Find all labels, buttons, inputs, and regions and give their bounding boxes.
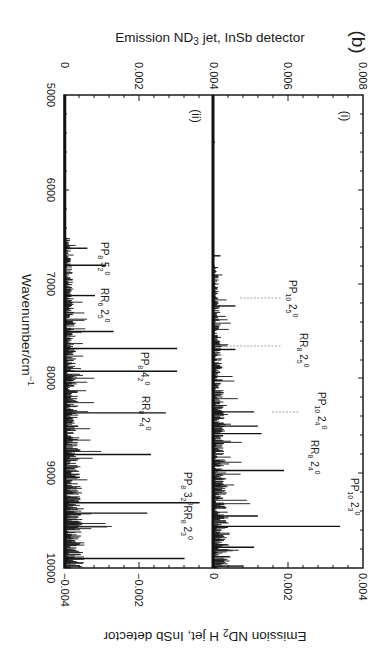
wavenumber-ticks: 5000 6000 7000 8000 9000 10000 bbox=[45, 83, 57, 584]
panel-label-ii: (ii) bbox=[189, 109, 203, 122]
top-axis-label: Emission ND3 jet, InSb detector bbox=[115, 30, 305, 47]
bottom-axis-label: Emission ND2 H jet, InSb detector bbox=[103, 627, 306, 644]
spectrum-ii bbox=[65, 95, 200, 568]
bottom-tick-neg0002: −0.002 bbox=[133, 573, 145, 607]
annotation-rr8-25: RR8 250 bbox=[296, 333, 310, 368]
panel-label-i: (i) bbox=[338, 111, 352, 122]
top-tick-0: 0 bbox=[59, 62, 71, 68]
spectrum-i bbox=[213, 95, 340, 568]
annotation-pp8-52: PP8 520 bbox=[97, 242, 111, 276]
wn-tick-6000: 6000 bbox=[45, 178, 57, 202]
annotation-pp8-42: PP8 420 bbox=[137, 352, 151, 386]
top-tick-0002: 0.002 bbox=[133, 62, 145, 90]
wavenumber-axis-label: Wavenumber/cm−1 bbox=[19, 274, 36, 386]
annotation-pp10-23: PP10 230 bbox=[347, 478, 361, 515]
figure-label: (b) bbox=[348, 30, 369, 53]
top-tick-0006: 0.006 bbox=[282, 62, 294, 90]
bottom-tick-0002: 0.002 bbox=[282, 573, 294, 601]
spectrum-figure: (b) Emission ND3 jet, InSb detector 0 0.… bbox=[0, 0, 386, 648]
wn-tick-9000: 9000 bbox=[45, 461, 57, 485]
annotation-pp10-25: PP10 250 bbox=[285, 280, 299, 317]
annotations-i: PP10 250 RR8 250 PP10 240 RR8 240 PP10 2… bbox=[285, 280, 361, 515]
top-tick-0004: 0.004 bbox=[208, 62, 220, 90]
annotation-rr8-24-i: RR8 240 bbox=[307, 440, 321, 475]
bottom-axis-ticks: −0.004 −0.002 0 0.002 0.004 bbox=[59, 573, 369, 607]
wn-tick-7000: 7000 bbox=[45, 272, 57, 296]
annotation-leaders-i bbox=[226, 298, 300, 412]
top-tick-0008: 0.008 bbox=[357, 62, 369, 90]
annotation-pp10-24: PP10 240 bbox=[314, 392, 328, 429]
bottom-tick-0: 0 bbox=[208, 573, 220, 579]
wn-tick-5000: 5000 bbox=[45, 83, 57, 107]
wn-tick-8000: 8000 bbox=[45, 366, 57, 390]
bottom-tick-0004: 0.004 bbox=[357, 573, 369, 601]
top-axis-ticks: 0 0.002 0.004 0.006 0.008 bbox=[59, 62, 369, 90]
bottom-tick-neg0004: −0.004 bbox=[59, 573, 71, 607]
annotation-rr6-25: RR6 250 bbox=[97, 288, 111, 323]
wn-tick-10000: 10000 bbox=[45, 553, 57, 584]
annotations-ii: PP8 520 RR6 250 PP8 420 RR8 240 PP8 320R… bbox=[97, 242, 194, 540]
annotation-pp8-32-rr8-23: PP8 320RR8 230 bbox=[180, 472, 194, 540]
